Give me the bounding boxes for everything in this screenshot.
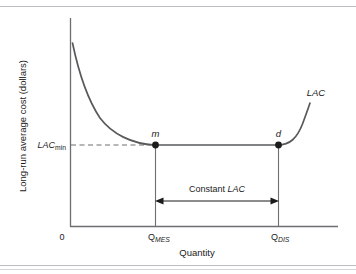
series-label-lac: LAC [307,87,326,98]
x-tick-label-q-dis-sub: DIS [278,236,290,243]
axis-origin-label: 0 [59,232,64,242]
lac-curve-path [73,43,311,145]
x-tick-label-q-mes-sub: MES [155,236,170,243]
constant-lac-annotation-italic: LAC [228,184,246,194]
constant-lac-arrow-head-left [155,198,164,205]
marker-point-d [275,142,282,149]
figure-frame: Long-run average cost (dollars) Quantity… [0,0,356,274]
y-tick-label-lac-min: LACmin [38,140,67,151]
x-axis-title: Quantity [179,247,215,258]
constant-lac-annotation-prefix: Constant [189,184,228,194]
constant-lac-annotation-label: Constant LAC [189,184,246,194]
y-axis-title: Long-run average cost (dollars) [17,60,28,192]
constant-lac-arrow-head-right [271,198,280,205]
marker-point-m [152,142,159,149]
x-tick-label-q-dis-main: Q [271,232,278,242]
lac-cost-curve-chart: Long-run average cost (dollars) Quantity… [0,0,356,274]
x-tick-label-q-mes: QMES [148,232,170,243]
x-tick-label-q-mes-main: Q [148,232,155,242]
y-tick-label-lac-min-sub: min [55,144,66,151]
x-tick-label-q-dis: QDIS [271,232,290,243]
y-tick-label-lac-min-main: LAC [38,140,56,150]
marker-label-m: m [152,128,160,139]
marker-label-d: d [276,128,282,139]
